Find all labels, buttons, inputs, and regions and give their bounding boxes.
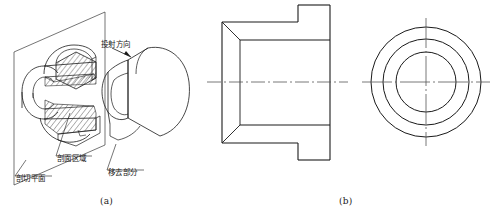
label-projection-direction: 投射方向 bbox=[101, 38, 130, 49]
label-cutting-plane: 剖切平面 bbox=[16, 172, 45, 183]
label-removed-portion: 移去部分 bbox=[108, 166, 137, 177]
caption-a: (a) bbox=[100, 196, 113, 206]
caption-b: (b) bbox=[339, 196, 352, 206]
engineering-section-figure bbox=[0, 0, 499, 217]
label-section-area: 剖面区域 bbox=[57, 152, 86, 163]
